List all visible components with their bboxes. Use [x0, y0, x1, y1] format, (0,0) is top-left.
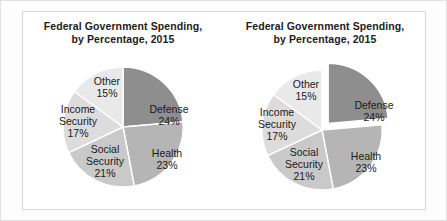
pie-right-label-other: Other 15% — [281, 78, 331, 102]
chart-title-right-line1: Federal Government Spending, — [224, 20, 426, 33]
chart-title-right: Federal Government Spending, by Percenta… — [224, 20, 426, 46]
pie-right-label-health: Health 23% — [339, 150, 393, 174]
pie-left-label-social-security: Social Security 21% — [76, 143, 134, 179]
pie-left-label-other: Other 15% — [82, 75, 132, 99]
pie-right-label-income-security: Income Security 17% — [247, 106, 307, 142]
chart-title-left: Federal Government Spending, by Percenta… — [22, 20, 224, 46]
chart-panel-left: Federal Government Spending, by Percenta… — [22, 11, 224, 210]
chart-panel-right: Federal Government Spending, by Percenta… — [224, 11, 426, 210]
chart-title-left-line2: by Percentage, 2015 — [22, 33, 224, 46]
chart-title-left-line1: Federal Government Spending, — [22, 20, 224, 33]
figure-container: Federal Government Spending, by Percenta… — [0, 0, 447, 221]
pie-right-wrap: Defense 24% Health 23% Social Security 2… — [224, 47, 426, 207]
pie-left-label-income-security: Income Security 17% — [48, 103, 108, 139]
pie-left-label-defense: Defense 24% — [138, 103, 200, 127]
pie-left-label-health: Health 23% — [140, 147, 194, 171]
charts-row: Federal Government Spending, by Percenta… — [22, 11, 426, 210]
pie-right-label-social-security: Social Security 21% — [275, 146, 333, 182]
pie-left-wrap: Defense 24% Health 23% Social Security 2… — [22, 47, 224, 207]
chart-title-right-line2: by Percentage, 2015 — [224, 33, 426, 46]
pie-right-label-defense: Defense 24% — [343, 99, 405, 123]
